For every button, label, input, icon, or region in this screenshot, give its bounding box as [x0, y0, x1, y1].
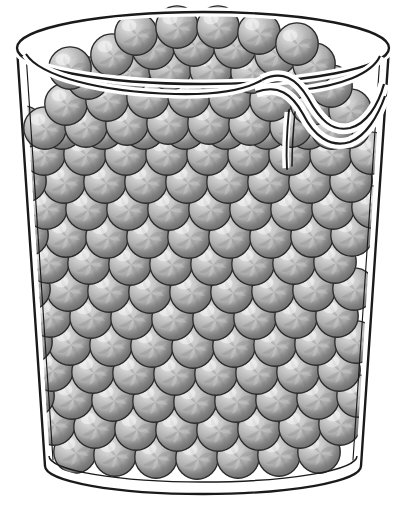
beaker-illustration-svg: Beaker filled with close-packed spheres — [0, 0, 406, 515]
illustration-root: Beaker filled with close-packed spheres — [0, 0, 406, 515]
sphere-stack-interior — [2, 106, 395, 480]
